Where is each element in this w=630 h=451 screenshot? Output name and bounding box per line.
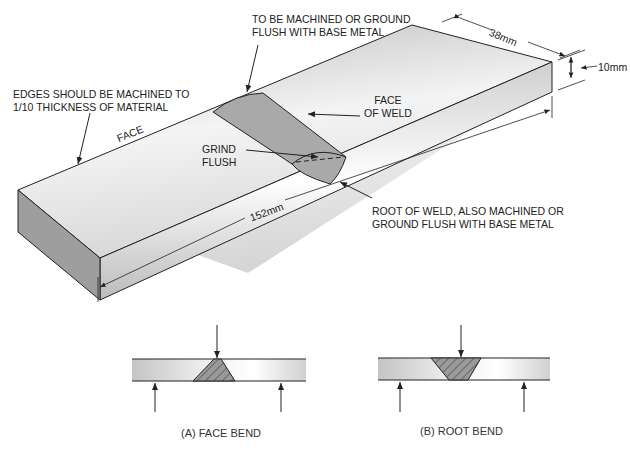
- edges-note: EDGES SHOULD BE MACHINED TO 1/10 THICKNE…: [13, 88, 189, 114]
- face-of-weld-line2: OF WELD: [364, 107, 412, 120]
- face-of-weld-line1: FACE: [364, 94, 412, 107]
- root-note-line2: GROUND FLUSH WITH BASE METAL: [372, 218, 564, 231]
- root-note-line1: ROOT OF WELD, ALSO MACHINED OR: [372, 205, 564, 218]
- face-bend-diagram: [132, 325, 306, 412]
- root-note: ROOT OF WELD, ALSO MACHINED OR GROUND FL…: [372, 205, 564, 231]
- face-of-weld-label: FACE OF WELD: [364, 94, 412, 120]
- grind-flush-label: GRIND FLUSH: [202, 143, 236, 169]
- grind-flush-line2: FLUSH: [202, 156, 236, 169]
- thickness-dimension: 10mm: [598, 61, 627, 74]
- root-bend-diagram: [378, 325, 550, 412]
- top-note-line1: TO BE MACHINED OR GROUND: [252, 13, 410, 26]
- edges-note-line2: 1/10 THICKNESS OF MATERIAL: [13, 101, 189, 114]
- top-note: TO BE MACHINED OR GROUND FLUSH WITH BASE…: [252, 13, 410, 39]
- root-bend-caption: (B) ROOT BEND: [420, 425, 503, 437]
- grind-flush-line1: GRIND: [202, 143, 236, 156]
- face-bend-caption: (A) FACE BEND: [181, 427, 261, 439]
- edges-note-line1: EDGES SHOULD BE MACHINED TO: [13, 88, 189, 101]
- top-note-line2: FLUSH WITH BASE METAL: [252, 26, 410, 39]
